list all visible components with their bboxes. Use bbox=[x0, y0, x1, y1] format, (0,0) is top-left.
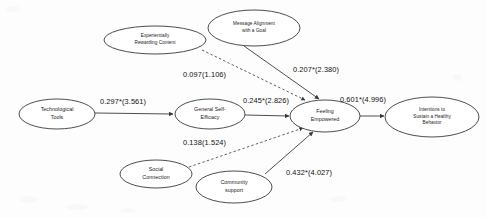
node-ellipse-technological-tools bbox=[19, 99, 95, 129]
path-coefficient-tools-to-efficacy: 0.297*(3.561) bbox=[100, 97, 146, 106]
node-ellipse-intentions-to-sustain-a-healthy-behavior bbox=[385, 97, 479, 137]
path-coefficient-efficacy-to-empowered: 0.245*(2.826) bbox=[243, 96, 289, 105]
path-arrow-efficacy-to-empowered bbox=[245, 115, 289, 116]
node-ellipse-community-support bbox=[196, 171, 272, 203]
path-arrow-tools-to-efficacy bbox=[95, 113, 173, 114]
path-coefficient-social-to-empowered: 0.138(1.524) bbox=[183, 138, 226, 147]
path-arrow-social-to-empowered bbox=[189, 128, 303, 167]
path-diagram-canvas: Technological ToolsExperientially Reward… bbox=[0, 0, 487, 218]
node-ellipse-experientially-rewarding-content bbox=[104, 26, 206, 54]
node-shape-layer bbox=[19, 10, 479, 203]
path-coefficient-message-to-empowered: 0.207*(2.380) bbox=[293, 65, 339, 74]
path-coefficient-empowered-to-intentions: 0.601*(4.996) bbox=[340, 95, 386, 104]
node-ellipse-general-self-efficacy bbox=[175, 99, 245, 129]
node-ellipse-message-alignment-with-a-goal bbox=[208, 10, 300, 46]
node-ellipse-social-connection bbox=[120, 160, 192, 188]
node-ellipse-feeling-empowered bbox=[290, 100, 360, 132]
path-coefficient-content-to-empowered: 0.097(1.106) bbox=[183, 70, 226, 79]
path-coefficient-community-to-empowered: 0.432*(4.027) bbox=[286, 168, 332, 177]
diagram-vector-layer bbox=[0, 0, 487, 218]
